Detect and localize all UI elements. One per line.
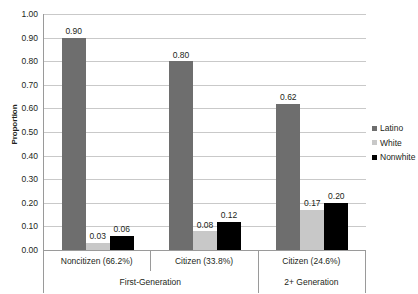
bar-value-label: 0.08 (197, 221, 214, 230)
category-label: Citizen (33.8%) (150, 251, 257, 271)
bar-chart: Proportion 1.000.900.800.700.600.500.400… (0, 0, 418, 294)
y-axis-tick-label: 0.10 (8, 222, 38, 231)
category-axis-end-tick (365, 251, 366, 271)
bar-value-label: 0.03 (89, 232, 106, 241)
legend-item[interactable]: Latino (372, 124, 418, 133)
bar-value-label: 0.62 (280, 93, 297, 102)
y-axis-tick-label: 1.00 (8, 10, 38, 19)
y-axis-tick-label: 0.70 (8, 81, 38, 90)
bar[interactable]: 0.17 (300, 210, 324, 250)
bar-value-label: 0.12 (221, 211, 238, 220)
y-axis-tick-label: 0.00 (8, 246, 38, 255)
legend: LatinoWhiteNonwhite (372, 124, 418, 168)
y-axis-tick-label: 0.60 (8, 104, 38, 113)
bar[interactable]: 0.90 (62, 38, 86, 250)
bar-value-label: 0.90 (65, 27, 82, 36)
y-axis-tick-label: 0.50 (8, 128, 38, 137)
category-separator (150, 251, 151, 271)
legend-label: Nonwhite (380, 153, 415, 162)
legend-label: White (380, 139, 402, 148)
category-group-label: 2+ Generation (258, 271, 365, 293)
y-axis-tick-label: 0.40 (8, 151, 38, 160)
bar-value-label: 0.20 (328, 192, 345, 201)
y-axis-tick-labels: 1.000.900.800.700.600.500.400.300.200.10… (8, 14, 38, 250)
bar-group: 0.900.030.06 (44, 14, 151, 250)
legend-label: Latino (380, 124, 403, 133)
y-axis-tick-label: 0.30 (8, 175, 38, 184)
bar-value-label: 0.06 (113, 225, 130, 234)
bar-group: 0.620.170.20 (259, 14, 366, 250)
bar[interactable]: 0.62 (276, 104, 300, 250)
bar[interactable]: 0.80 (169, 61, 193, 250)
category-axis-tier-categories: Noncitizen (66.2%)Citizen (33.8%)Citizen… (43, 251, 366, 271)
plot-area: 0.900.030.060.800.080.120.620.170.20 (43, 14, 366, 251)
category-group-end-tick (43, 271, 44, 293)
category-label: Noncitizen (66.2%) (43, 251, 150, 271)
bar[interactable]: 0.03 (86, 243, 110, 250)
bars-layer: 0.900.030.060.800.080.120.620.170.20 (44, 14, 366, 250)
bar[interactable]: 0.06 (110, 236, 134, 250)
bar-value-label: 0.17 (304, 199, 321, 208)
category-separator (258, 251, 259, 271)
legend-swatch-icon (372, 126, 377, 131)
category-axis: Noncitizen (66.2%)Citizen (33.8%)Citizen… (43, 251, 366, 294)
legend-swatch-icon (372, 140, 377, 145)
legend-item[interactable]: Nonwhite (372, 153, 418, 162)
bar[interactable]: 0.12 (217, 222, 241, 250)
y-axis-tick-label: 0.90 (8, 33, 38, 42)
bar-value-label: 0.80 (173, 51, 190, 60)
category-group-label: First-Generation (43, 271, 258, 293)
bar[interactable]: 0.08 (193, 231, 217, 250)
bar[interactable]: 0.20 (324, 203, 348, 250)
category-axis-end-tick (43, 251, 44, 271)
category-axis-tier-groups: First-Generation2+ Generation (43, 271, 366, 293)
bar-group: 0.800.080.12 (151, 14, 258, 250)
y-axis-tick-label: 0.80 (8, 57, 38, 66)
category-label: Citizen (24.6%) (258, 251, 365, 271)
category-group-end-tick (365, 271, 366, 293)
legend-item[interactable]: White (372, 139, 418, 148)
legend-swatch-icon (372, 155, 377, 160)
y-axis-tick-label: 0.20 (8, 199, 38, 208)
